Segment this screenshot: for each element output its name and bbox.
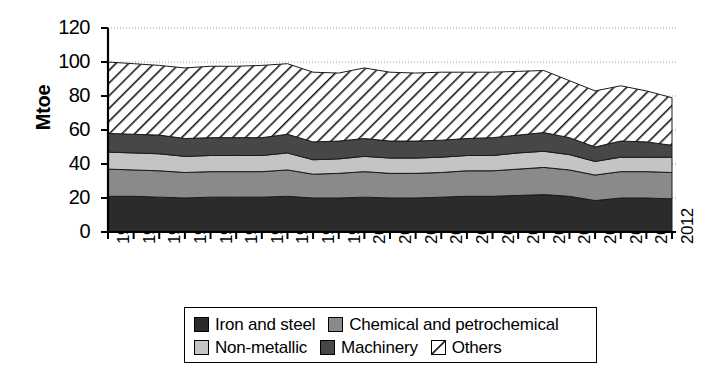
- dark-solid-swatch: [194, 317, 209, 332]
- legend-label-iron-and-steel: Iron and steel: [215, 315, 315, 335]
- legend-entry-chemical-and-petrochemical: Chemical and petrochemical: [328, 315, 558, 335]
- legend-label-others: Others: [452, 338, 502, 358]
- legend-row-2: Non-metallic Machinery Others: [194, 336, 587, 359]
- legend-label-machinery: Machinery: [341, 338, 418, 358]
- area-series-others: [108, 62, 672, 147]
- legend-entry-non-metallic: Non-metallic: [194, 338, 307, 358]
- legend-label-chemical-and-petrochemical: Chemical and petrochemical: [349, 315, 558, 335]
- legend-row-1: Iron and steel Chemical and petrochemica…: [194, 313, 587, 336]
- area-series-group: [108, 62, 672, 232]
- chart-legend: Iron and steel Chemical and petrochemica…: [184, 307, 597, 363]
- area-series-iron-and-steel: [108, 195, 672, 232]
- medium-gray-solid-swatch: [328, 317, 343, 332]
- dark-gray-solid-swatch: [320, 340, 335, 355]
- stacked-area-chart: Mtoe 020406080100120 1990199119921993199…: [0, 0, 721, 386]
- legend-entry-machinery: Machinery: [320, 338, 418, 358]
- light-gray-solid-swatch: [194, 340, 209, 355]
- legend-label-non-metallic: Non-metallic: [215, 338, 307, 358]
- legend-entry-others: Others: [431, 338, 502, 358]
- legend-entry-iron-and-steel: Iron and steel: [194, 315, 315, 335]
- diagonal-hatch-swatch: [431, 340, 446, 355]
